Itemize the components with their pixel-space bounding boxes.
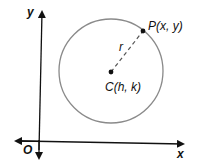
circle-diagram: y x O P(x, y) r C(h, k) — [0, 0, 199, 168]
radius-label: r — [119, 40, 124, 54]
circle-point — [141, 29, 146, 34]
point-label: P(x, y) — [148, 19, 183, 33]
y-axis — [39, 12, 42, 150]
y-axis-label: y — [26, 5, 35, 19]
radius-line — [111, 31, 143, 72]
center-label: C(h, k) — [105, 80, 141, 94]
diagram-svg: y x O P(x, y) r C(h, k) — [0, 0, 199, 168]
origin-label: O — [23, 143, 33, 157]
x-axis-label: x — [176, 147, 185, 161]
center-point — [109, 70, 114, 75]
x-axis — [22, 141, 183, 144]
